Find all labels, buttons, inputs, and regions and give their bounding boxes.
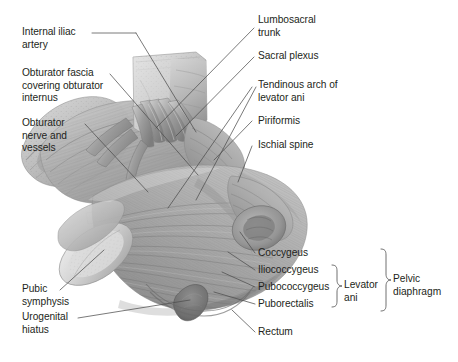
label-ischial-spine: Ischial spine xyxy=(258,139,313,152)
label-levator-ani-group: Levator ani xyxy=(344,279,378,304)
label-coccygeus: Coccygeus xyxy=(258,247,308,260)
label-urogenital-hiatus: Urogenital hiatus xyxy=(22,311,68,336)
label-piriformis: Piriformis xyxy=(258,115,300,128)
label-tendinous-arch: Tendinous arch of levator ani xyxy=(258,79,338,104)
label-lumbosacral-trunk: Lumbosacral trunk xyxy=(258,14,316,39)
label-pelvic-diaphragm-group: Pelvic diaphragm xyxy=(393,273,441,298)
brace-levator-ani xyxy=(332,265,342,307)
label-obturator-fascia: Obturator fascia covering obturator inte… xyxy=(22,67,103,105)
label-pubic-symphysis: Pubic symphysis xyxy=(22,283,69,308)
brace-pelvic-diaphragm xyxy=(381,249,391,311)
label-obturator-nerve-vessels: Obturator nerve and vessels xyxy=(22,117,67,155)
label-iliococcygeus: Iliococcygeus xyxy=(258,264,319,277)
label-internal-iliac-artery: Internal iliac artery xyxy=(22,26,76,51)
label-sacral-plexus: Sacral plexus xyxy=(258,50,319,63)
anatomical-figure: Internal iliac artery Obturator fascia c… xyxy=(0,0,458,362)
label-puborectalis: Puborectalis xyxy=(258,298,313,311)
label-rectum: Rectum xyxy=(258,326,293,339)
label-pubococcygeus: Pubococcygeus xyxy=(258,281,329,294)
